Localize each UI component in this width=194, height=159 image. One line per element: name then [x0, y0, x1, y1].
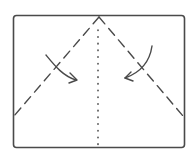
- origami-diagram: [0, 0, 194, 159]
- right-valley-fold-line: [99, 17, 183, 116]
- left-fold-arrow-icon: [46, 55, 77, 83]
- paper-outline: [14, 16, 185, 148]
